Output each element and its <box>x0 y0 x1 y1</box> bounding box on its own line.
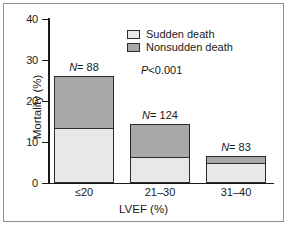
x-tick-label-3: 31–40 <box>206 186 266 198</box>
bar-3-count-value: = 83 <box>229 141 251 153</box>
bar-3-nonsudden-death-segment[interactable] <box>206 156 266 163</box>
legend-label-sudden-death: Sudden death <box>146 29 215 40</box>
p-value-annotation: P<0.001 <box>141 64 182 76</box>
bar-2-count-italic-n: N <box>142 109 150 121</box>
x-axis-title: LVEF (%) <box>0 203 287 215</box>
y-tick-40 <box>42 19 48 21</box>
y-tick-label-0: 0 <box>32 177 38 189</box>
legend-item-nonsudden-death[interactable]: Nonsudden death <box>127 41 233 53</box>
p-value-rest: <0.001 <box>148 64 182 76</box>
bar-group-2[interactable] <box>130 124 190 183</box>
bar-1-count-label: N= 88 <box>69 61 99 73</box>
bar-1-count-italic-n: N <box>69 61 77 73</box>
figure-container: 40 30 20 10 0 Mortality (%) N= 88 N= 124… <box>0 0 287 225</box>
bar-2-nonsudden-death-segment[interactable] <box>130 124 190 157</box>
bar-3-sudden-death-segment[interactable] <box>206 163 266 184</box>
bar-2-count-value: = 124 <box>150 109 178 121</box>
legend: Sudden death Nonsudden death <box>127 28 233 54</box>
bar-group-1[interactable] <box>54 76 114 183</box>
bar-2-count-label: N= 124 <box>142 109 178 121</box>
bar-2-sudden-death-segment[interactable] <box>130 157 190 183</box>
x-tick-label-1: ≤20 <box>54 186 114 198</box>
bar-1-nonsudden-death-segment[interactable] <box>54 76 114 127</box>
legend-item-sudden-death[interactable]: Sudden death <box>127 28 233 40</box>
y-axis-title: Mortality (%) <box>31 47 43 167</box>
y-tick-0 <box>42 183 48 185</box>
bar-3-count-label: N= 83 <box>221 141 251 153</box>
bar-1-sudden-death-segment[interactable] <box>54 128 114 183</box>
legend-swatch-nonsudden-death <box>127 43 140 52</box>
bar-1-count-value: = 88 <box>77 61 99 73</box>
x-tick-label-2: 21–30 <box>130 186 190 198</box>
bar-group-3[interactable] <box>206 156 266 184</box>
y-tick-label-40: 40 <box>26 13 38 25</box>
legend-label-nonsudden-death: Nonsudden death <box>146 42 233 53</box>
bar-3-count-italic-n: N <box>221 141 229 153</box>
legend-swatch-sudden-death <box>127 30 140 39</box>
